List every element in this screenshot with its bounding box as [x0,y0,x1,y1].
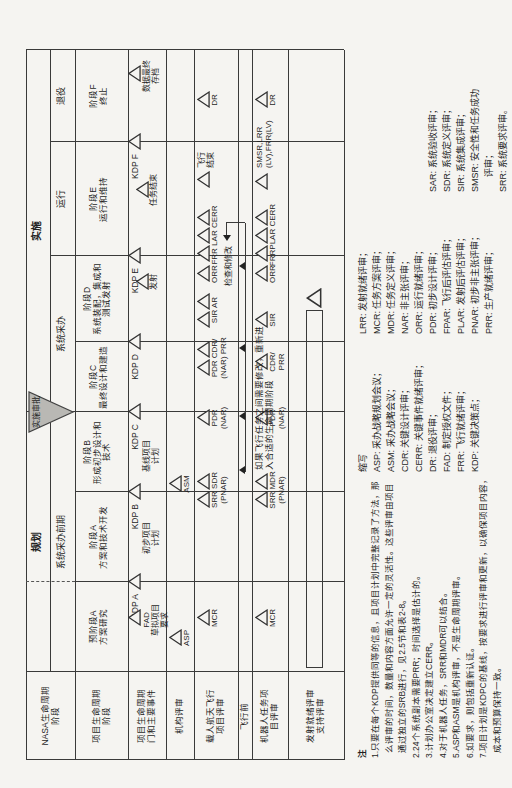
note-line: 2.24个系统副本需要PRR；时间选择是估计的。 [410,571,424,759]
feedback-loop-riser [226,222,245,223]
human-review-triangle [197,246,210,263]
nasa-subphase-label: 系统采办 [56,294,66,374]
abbr-entry: SIR: 系统集成评审； [454,109,468,192]
abbr-entry: SAR: 系统验收评审； [426,105,440,192]
abbr-entry: ASM: 采办战略会议； [384,384,398,472]
note-line: 4.对于机器人任务，SRR和MDR可以结合。 [437,588,451,758]
robotic-review-triangle [255,210,268,227]
note-line: 3.计划办公室决定建立CERR。 [423,637,437,758]
figure-notes-block: 注1.只要在每个KDP提供同等的信息，且项目计划中完整记录了方法，那 么评审的时… [348,28,508,768]
gate-event-label: FAD草拟项目要求 [143,580,170,660]
human-review-label: 飞行结束 [198,152,216,168]
note-line: 7.项目计划是KDPC的基线，按要求进行评审和更新，以确保项目内容， [477,475,491,758]
gate-event-triangle [136,182,149,199]
feedback-reentry-arrow-icon [239,412,245,420]
abbr-entry: SMSR: 安全性和任务成功 [468,89,482,192]
agency-review-triangle [169,476,182,493]
human-review-triangle [197,360,210,377]
abbr-entry: FPAR: 飞行后评估评审； [440,234,454,334]
gate-event-label: 数据最终存档 [143,36,161,116]
gate-event-label: 基线项目计划 [143,416,161,496]
robotic-review-triangle [255,92,268,109]
grid-line [50,50,51,672]
robotic-review-triangle [255,610,268,627]
robotic-review-triangle [255,474,268,491]
abbr-entry: 评审； [482,150,496,192]
row-header-robotic: 机器人任务项目评审 [252,672,288,760]
reenter-lifecycle-note: 如果飞行任务之间需要修改，重新进入合适的生命周期阶段 [255,326,274,470]
human-review-triangle [197,492,210,509]
gate-event-triangle [136,274,149,291]
agency-review-triangle [169,630,182,647]
human-review-triangle [197,172,210,189]
project-phase-cell: 阶段E运行和维持 [89,159,108,239]
agency-review-label: ASM [183,444,192,524]
note-line: 么评审的时间，数量和内容方面允许一定的灵活性。这些评审由项目 [383,483,397,758]
nasa-subphase-label: 系统采办前期 [56,502,66,582]
abbr-entry: LRR: 发射就绪评审； [356,248,370,334]
project-phase-cell: 阶段F终止 [89,56,108,136]
robotic-review-triangle [255,174,268,191]
human-review-triangle [197,342,210,359]
note-line: 1.只要在每个KDP提供同等的信息，且项目计划中完整记录了方法，那 [369,481,383,758]
project-phase-cell: 阶段A方案和技术开发 [89,497,108,577]
human-review-label: MCR [211,578,220,658]
row-header-project: 项目生命周期阶段 [75,672,128,760]
human-review-triangle [197,294,210,311]
table-right-border [26,49,344,50]
human-review-triangle [197,474,210,491]
feedback-loop-stub [226,223,227,235]
robotic-review-triangle [255,492,268,509]
abbr-entry: FRR: 飞行就绪评审； [454,386,468,473]
abbr-entry: ASP: 采办战略规划会议； [370,368,384,472]
human-review-triangle [197,312,210,329]
row-header-nasa: NASA生命周期阶段 [26,672,75,760]
abbr-entry: ORR: 运行就绪评审； [412,246,426,334]
phase-divider [75,141,344,142]
implementation-label: 实施 [31,191,42,271]
formulation-label: 规划 [31,502,42,582]
kdp-label: KDP C [131,424,141,458]
abbr-entry: DR: 退役评审； [426,409,440,472]
phase-divider [75,581,344,582]
human-review-triangle [197,410,210,427]
scanned-book-page: { "palette":{"bg":"#f5f4f1","line":"#3a3… [0,0,512,788]
row-header-preflight: 飞行前 [238,672,252,760]
project-phase-cell: 阶段D系统装配，集成和测试发射 [83,259,112,339]
kdp-triangle [128,334,141,351]
abbr-entry: MCR: 任务方案评审； [370,246,384,335]
human-review-label: SRR SDR(PNAR) [211,450,229,530]
row-header-gates: 项目生命周期门和主要事件 [128,672,166,760]
row-header-agency: 机构评审 [166,672,194,760]
abbr-entry: PDR: 初步设计评审； [426,247,440,334]
gate-event-label: 任务结束 [150,150,159,230]
abbr-entry: KDP: 关键决策点； [468,394,482,472]
gate-event-label: 初步项目计划 [143,498,161,578]
human-review-triangle [197,92,210,109]
robotic-review-triangle [255,246,268,263]
grid-line [50,255,75,256]
abbr-entry: CDR: 关键设计评审； [398,385,412,473]
gate-event-triangle [128,66,141,83]
note-line: 5.ASP和ASM是机构评审，不是生命周期评审。 [450,571,464,758]
human-review-triangle [197,228,210,245]
kdp-triangle [128,404,141,421]
robotic-review-triangle [255,266,268,283]
abbr-entry: PNAR: 初步非主张评审； [468,232,482,334]
human-review-triangle [197,210,210,227]
kdp-triangle [128,484,141,501]
robotic-review-label: MCR [269,578,278,658]
abbr-entry: SRR: 系统要求评审。 [496,105,510,192]
human-review-label: FRR LAR CERR [211,195,220,275]
note-line: 6.如要求，则包括重新认证。 [464,643,478,758]
agency-review-label: ASP [183,598,192,678]
feedback-loop-line [245,223,246,472]
note-line: 通过独立的SRB进行，见2.5节和表2-8。 [396,595,410,758]
abbr-title: 缩写 [356,454,370,472]
kdp-triangle [128,574,141,591]
table-bottom-border [344,50,345,760]
support-review-triangle [306,288,322,308]
gate-event-label: 发射 [150,242,159,322]
gate-event-triangle [128,610,141,627]
grid-line [252,50,253,760]
